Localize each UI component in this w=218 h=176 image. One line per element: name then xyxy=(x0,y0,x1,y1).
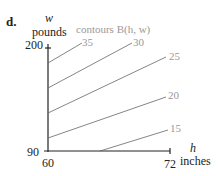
contour-25 xyxy=(48,57,166,113)
contour-20 xyxy=(48,97,166,138)
contour-30 xyxy=(48,43,132,88)
chart-plot xyxy=(0,0,218,176)
axes xyxy=(44,44,170,154)
contour-15 xyxy=(100,130,168,151)
contour-35 xyxy=(48,43,82,63)
contour-lines xyxy=(48,43,168,151)
